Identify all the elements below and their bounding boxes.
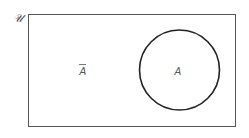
universe-rectangle [29,15,236,127]
universe-label: 𝒰 [13,12,26,25]
complement-label: A [79,66,87,77]
venn-diagram: 𝒰 A A [0,0,249,138]
set-a-label: A [174,66,182,77]
